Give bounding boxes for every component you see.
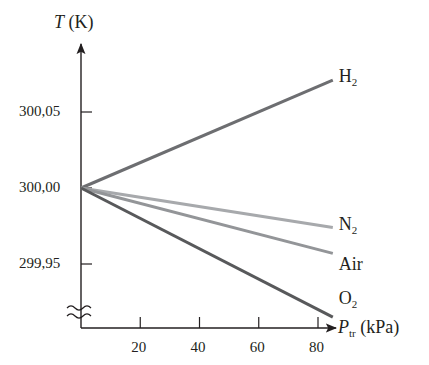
x-tick-label: 40 xyxy=(191,340,206,355)
x-ticks xyxy=(140,317,318,328)
chart-canvas xyxy=(0,0,429,365)
axis-break-icon xyxy=(67,306,91,318)
series-label-o2: O2 xyxy=(339,289,358,310)
y-tick-label: 299,95 xyxy=(19,256,60,271)
y-tick-label: 300,00 xyxy=(19,180,60,195)
y-tick-label: 300,05 xyxy=(19,104,60,119)
x-tick-label: 20 xyxy=(131,340,146,355)
series-label-air: Air xyxy=(339,255,363,273)
x-tick-label: 80 xyxy=(309,340,324,355)
x-tick-label: 60 xyxy=(250,340,265,355)
series-label-n2: N2 xyxy=(339,215,358,236)
y-axis-label: T (K) xyxy=(54,13,94,31)
series-lines xyxy=(81,80,333,317)
series-label-h2: H2 xyxy=(339,67,358,88)
series-line-h2 xyxy=(81,80,333,188)
x-axis-label: Ptr (kPa) xyxy=(338,318,399,339)
